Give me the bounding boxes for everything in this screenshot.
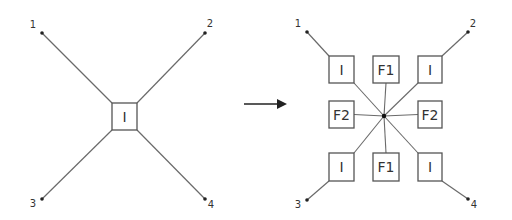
box-f1-top: F1 (373, 56, 399, 83)
terminal-dot (203, 197, 207, 201)
left-diagram: I 1234 (30, 18, 214, 210)
box-f2-left: F2 (329, 101, 354, 128)
left-center-box: I (112, 103, 137, 130)
edge-line (384, 115, 418, 117)
terminal-dot (466, 197, 470, 201)
terminal-label: 1 (295, 18, 301, 29)
edge-line (42, 130, 112, 199)
edge-line (442, 32, 468, 56)
edge-line (307, 32, 329, 56)
edge-line (384, 83, 386, 116)
edge-line (354, 115, 384, 117)
terminal-label: 2 (470, 18, 476, 29)
edge-line (354, 116, 384, 153)
terminal-dot (203, 31, 207, 35)
edge-line (384, 83, 418, 116)
right-diagram: IF1IF2F2IF1I 1234 (295, 18, 477, 210)
edge-line (354, 83, 384, 116)
box-i-top-left: I (329, 56, 354, 83)
terminal-label: 4 (208, 199, 214, 210)
box-label: F1 (378, 62, 395, 78)
box-label: F1 (378, 159, 395, 175)
box-label: I (428, 159, 432, 175)
edge-line (137, 33, 205, 103)
edge-line (442, 181, 468, 199)
box-label: F2 (333, 107, 350, 123)
box-label: I (339, 159, 343, 175)
edge-line (42, 33, 112, 103)
diagram-svg: I 1234 IF1IF2F2IF1I 1234 (0, 0, 512, 220)
terminal-label: 3 (295, 199, 301, 210)
box-i-bottom-right: I (418, 153, 442, 181)
terminal-dot (305, 198, 309, 202)
right-center-node (382, 114, 386, 118)
terminal-dot (305, 30, 309, 34)
edge-line (384, 116, 386, 153)
box-i-bottom-left: I (329, 153, 354, 181)
terminal-label: 2 (207, 18, 213, 29)
right-boxes: IF1IF2F2IF1I (329, 56, 442, 181)
box-f2-right: F2 (418, 101, 442, 128)
edge-line (384, 116, 418, 153)
terminal-label: 4 (471, 199, 477, 210)
terminal-dot (40, 197, 44, 201)
center-node-dot (382, 114, 386, 118)
edge-line (137, 130, 205, 199)
box-label: I (428, 62, 432, 78)
box-label: F2 (422, 107, 439, 123)
diagram-canvas: I 1234 IF1IF2F2IF1I 1234 (0, 0, 512, 220)
box-label: I (122, 109, 126, 125)
box-i-top-right: I (418, 56, 442, 83)
box-f1-bottom: F1 (373, 153, 399, 181)
box-label: I (339, 62, 343, 78)
terminal-dot (466, 30, 470, 34)
terminal-label: 1 (30, 19, 36, 30)
terminal-dot (40, 31, 44, 35)
terminal-label: 3 (30, 198, 36, 209)
edge-line (307, 181, 329, 200)
